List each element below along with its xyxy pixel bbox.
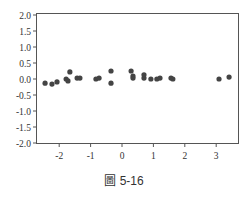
data-points [42, 68, 231, 86]
data-point [65, 78, 70, 83]
y-tick-label: -0.5 [16, 91, 31, 101]
data-point [77, 75, 82, 80]
scatter-chart: 2.01.51.00.50.0-0.5-1.0-1.5-2.0 -2-10123 [0, 0, 248, 170]
data-point [108, 68, 113, 73]
y-tick-label: 0.5 [19, 59, 31, 69]
figure-caption: 圖 5-16 [0, 171, 248, 188]
data-point [148, 76, 153, 81]
y-axis: 2.01.51.00.50.0-0.5-1.0-1.5-2.0 [16, 11, 37, 149]
y-tick-label: 2.0 [19, 11, 31, 21]
x-tick-label: 0 [120, 151, 125, 161]
data-point [141, 72, 146, 77]
data-point [42, 81, 47, 86]
x-tick-label: -2 [55, 151, 63, 161]
y-tick-label: 0.0 [19, 75, 31, 85]
data-point [130, 75, 135, 80]
y-tick-label: 1.0 [19, 43, 31, 53]
data-point [226, 74, 231, 79]
y-tick-label: -1.5 [16, 123, 31, 133]
y-tick-label: -2.0 [16, 139, 31, 149]
x-tick-label: 3 [214, 151, 219, 161]
x-tick-label: 1 [151, 151, 156, 161]
y-tick-label: 1.5 [19, 27, 31, 37]
data-point [54, 79, 59, 84]
x-tick-label: -1 [87, 151, 95, 161]
data-point [157, 75, 162, 80]
data-point [216, 76, 221, 81]
data-point [129, 68, 134, 73]
data-point [170, 76, 175, 81]
y-tick-label: -1.0 [16, 107, 31, 117]
data-point [96, 75, 101, 80]
data-point [67, 69, 72, 74]
x-tick-label: 2 [182, 151, 187, 161]
data-point [108, 81, 113, 86]
x-axis: -2-10123 [55, 144, 219, 162]
data-point [49, 82, 54, 87]
